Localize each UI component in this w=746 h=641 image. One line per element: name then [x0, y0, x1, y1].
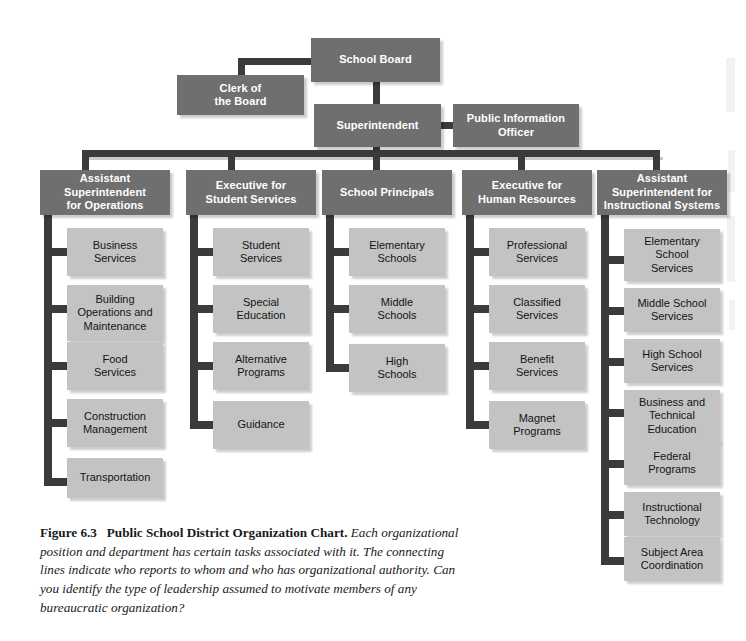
connector-bus-to-school-principals — [373, 150, 380, 172]
unit-student-services-4-label: Guidance — [232, 418, 289, 431]
unit-operations-3[interactable]: FoodServices — [67, 342, 163, 390]
unit-student-services-2-label: SpecialEducation — [232, 296, 291, 323]
connector-superintendent-to-pio — [440, 122, 454, 129]
scan-artifact — [729, 300, 735, 330]
stub-operations-2 — [44, 305, 68, 313]
node-superintendent[interactable]: Superintendent — [314, 104, 441, 147]
spine-school-principals — [326, 212, 334, 372]
stub-instructional-systems-6 — [601, 511, 625, 519]
node-operations[interactable]: AssistantSuperintendentfor Operations — [40, 170, 170, 215]
spine-student-services — [190, 212, 198, 429]
stub-school-principals-2 — [326, 305, 350, 313]
node-clerk-of-the-board[interactable]: Clerk ofthe Board — [177, 75, 304, 115]
stub-operations-5 — [44, 478, 68, 486]
node-student-services-label: Executive forStudent Services — [201, 179, 302, 206]
connector-bus-to-operations — [82, 150, 89, 172]
stub-student-services-4 — [190, 421, 214, 429]
unit-school-principals-2-label: MiddleSchools — [372, 296, 421, 323]
stub-school-principals-3 — [326, 364, 350, 372]
node-public-information-officer-label: Public InformationOfficer — [462, 112, 570, 139]
stub-human-resources-4 — [466, 421, 490, 429]
unit-instructional-systems-3-label: High SchoolServices — [637, 348, 706, 375]
unit-instructional-systems-6-label: InstructionalTechnology — [637, 501, 706, 528]
unit-instructional-systems-7[interactable]: Subject AreaCoordination — [624, 537, 720, 581]
unit-student-services-1[interactable]: StudentServices — [213, 228, 309, 276]
unit-operations-5-label: Transportation — [75, 471, 156, 484]
stub-school-principals-1 — [326, 248, 350, 256]
connector-bus-to-student-services — [228, 150, 235, 172]
unit-student-services-1-label: StudentServices — [235, 239, 287, 266]
unit-school-principals-3-label: HighSchools — [372, 355, 421, 382]
unit-instructional-systems-1-label: ElementarySchoolServices — [639, 235, 705, 275]
node-superintendent-label: Superintendent — [331, 119, 423, 132]
unit-operations-2[interactable]: BuildingOperations andMaintenance — [67, 285, 163, 341]
node-student-services[interactable]: Executive forStudent Services — [186, 170, 316, 215]
unit-operations-4[interactable]: ConstructionManagement — [67, 399, 163, 447]
node-operations-label: AssistantSuperintendentfor Operations — [59, 172, 151, 212]
connector-bus-to-human-resources — [518, 150, 525, 172]
unit-operations-4-label: ConstructionManagement — [78, 410, 152, 437]
stub-operations-3 — [44, 362, 68, 370]
node-school-board[interactable]: School Board — [311, 38, 440, 82]
unit-human-resources-4[interactable]: MagnetPrograms — [489, 401, 585, 449]
unit-instructional-systems-1[interactable]: ElementarySchoolServices — [624, 229, 720, 281]
stub-student-services-3 — [190, 362, 214, 370]
stub-operations-1 — [44, 248, 68, 256]
unit-human-resources-1-label: ProfessionalServices — [502, 239, 573, 266]
unit-operations-2-label: BuildingOperations andMaintenance — [72, 293, 157, 333]
node-clerk-of-the-board-label: Clerk ofthe Board — [209, 82, 271, 109]
stub-instructional-systems-2 — [601, 307, 625, 315]
org-chart-figure: School Board Clerk ofthe Board Superinte… — [0, 0, 746, 641]
spine-human-resources — [466, 212, 474, 429]
stub-human-resources-3 — [466, 362, 490, 370]
unit-school-principals-2[interactable]: MiddleSchools — [349, 285, 445, 333]
unit-human-resources-1[interactable]: ProfessionalServices — [489, 228, 585, 276]
unit-student-services-2[interactable]: SpecialEducation — [213, 285, 309, 333]
unit-school-principals-1-label: ElementarySchools — [364, 239, 430, 266]
unit-operations-1-label: BusinessServices — [88, 239, 143, 266]
node-human-resources[interactable]: Executive forHuman Resources — [462, 170, 592, 215]
unit-human-resources-3-label: BenefitServices — [511, 353, 563, 380]
unit-operations-5[interactable]: Transportation — [67, 458, 163, 498]
unit-human-resources-3[interactable]: BenefitServices — [489, 342, 585, 390]
node-instructional-systems[interactable]: AssistantSuperintendent forInstructional… — [597, 170, 727, 215]
unit-student-services-4[interactable]: Guidance — [213, 401, 309, 449]
unit-instructional-systems-5[interactable]: FederalPrograms — [624, 441, 720, 485]
unit-instructional-systems-2-label: Middle SchoolServices — [632, 297, 711, 324]
unit-student-services-3[interactable]: AlternativePrograms — [213, 342, 309, 390]
connector-division-bus — [82, 150, 660, 157]
unit-instructional-systems-5-label: FederalPrograms — [643, 450, 701, 477]
connector-bus-to-instructional-systems — [653, 150, 660, 172]
stub-instructional-systems-1 — [601, 256, 625, 264]
node-public-information-officer[interactable]: Public InformationOfficer — [453, 104, 579, 147]
stub-student-services-2 — [190, 305, 214, 313]
stub-human-resources-1 — [466, 248, 490, 256]
node-school-principals-label: School Principals — [335, 186, 439, 199]
unit-student-services-3-label: AlternativePrograms — [230, 353, 292, 380]
stub-instructional-systems-3 — [601, 358, 625, 366]
stub-instructional-systems-5 — [601, 460, 625, 468]
unit-operations-1[interactable]: BusinessServices — [67, 228, 163, 276]
node-instructional-systems-label: AssistantSuperintendent forInstructional… — [599, 172, 725, 212]
scan-artifact — [728, 150, 735, 192]
unit-human-resources-4-label: MagnetPrograms — [508, 412, 566, 439]
scan-artifact — [726, 58, 735, 112]
unit-instructional-systems-6[interactable]: InstructionalTechnology — [624, 492, 720, 536]
unit-instructional-systems-2[interactable]: Middle SchoolServices — [624, 288, 720, 332]
unit-instructional-systems-3[interactable]: High SchoolServices — [624, 339, 720, 383]
scan-artifact — [727, 216, 735, 282]
unit-human-resources-2[interactable]: ClassifiedServices — [489, 285, 585, 333]
figure-label: Figure 6.3 — [40, 525, 97, 540]
unit-school-principals-1[interactable]: ElementarySchools — [349, 228, 445, 276]
unit-school-principals-3[interactable]: HighSchools — [349, 344, 445, 392]
node-school-principals[interactable]: School Principals — [322, 170, 452, 215]
figure-caption: Figure 6.3 Public School District Organi… — [40, 524, 460, 618]
stub-student-services-1 — [190, 248, 214, 256]
stub-operations-4 — [44, 419, 68, 427]
stub-instructional-systems-4 — [601, 409, 625, 417]
stub-human-resources-2 — [466, 305, 490, 313]
unit-instructional-systems-7-label: Subject AreaCoordination — [636, 546, 708, 573]
figure-title: Public School District Organization Char… — [107, 525, 348, 540]
unit-instructional-systems-4[interactable]: Business andTechnicalEducation — [624, 390, 720, 442]
unit-operations-3-label: FoodServices — [89, 353, 141, 380]
